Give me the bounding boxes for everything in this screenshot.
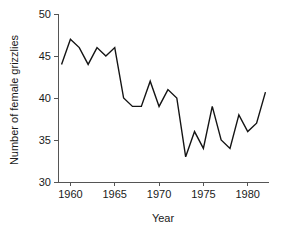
grizzly-count-line (62, 39, 266, 157)
y-tick-label-30: 30 (39, 176, 51, 188)
y-axis-title: Number of female grizzlies (8, 34, 20, 165)
y-tick-label-45: 45 (39, 50, 51, 62)
x-tick-label-1980: 1980 (235, 188, 259, 200)
x-tick-label-1960: 1960 (58, 188, 82, 200)
x-axis-title: Year (152, 212, 175, 224)
y-tick-label-40: 40 (39, 92, 51, 104)
x-tick-label-1965: 1965 (102, 188, 126, 200)
y-axis: 3035404550 (39, 8, 58, 188)
grizzly-population-chart: 3035404550 19601965197019751980 Year Num… (0, 0, 289, 228)
x-axis-ticks (70, 182, 247, 186)
x-tick-label-1970: 1970 (147, 188, 171, 200)
y-tick-label-35: 35 (39, 134, 51, 146)
x-axis: 19601965197019751980 (58, 182, 269, 200)
y-tick-label-50: 50 (39, 8, 51, 20)
x-tick-label-1975: 1975 (191, 188, 215, 200)
chart-plot-area: 3035404550 19601965197019751980 Year Num… (0, 0, 289, 228)
y-axis-ticks (54, 14, 58, 182)
x-axis-tick-labels: 19601965197019751980 (58, 188, 260, 200)
y-axis-tick-labels: 3035404550 (39, 8, 51, 188)
